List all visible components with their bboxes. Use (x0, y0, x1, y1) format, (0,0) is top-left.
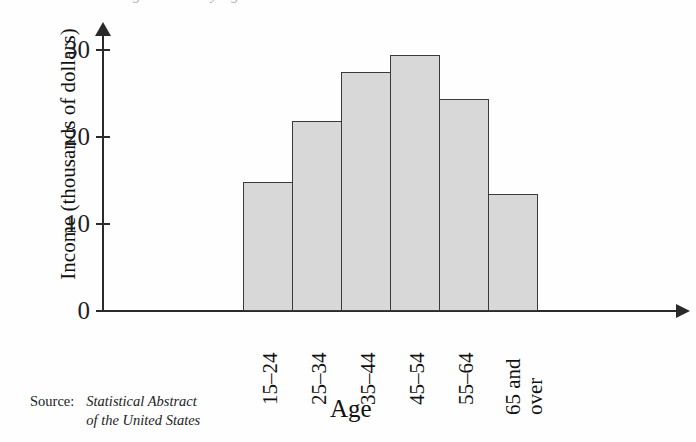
y-axis-tick (96, 136, 110, 138)
x-axis-tick-label-line: 55–64 (454, 353, 478, 406)
x-axis-tick-label: 45–54 (406, 353, 428, 406)
x-axis-arrow-icon (676, 304, 690, 318)
bar (488, 194, 538, 311)
source-note: Source: Statistical Abstract of the Unit… (30, 392, 200, 430)
x-axis-tick-label-line: over (524, 307, 546, 415)
y-axis-tick (96, 310, 110, 312)
y-axis-tick-label-text: 10 (44, 211, 90, 236)
y-axis-line (102, 30, 104, 312)
y-axis-tick-label-text: 30 (44, 37, 90, 62)
source-citation-line2: of the United States (86, 411, 200, 430)
bar-chart-figure: Average Income by Age Income (thousands … (0, 0, 696, 442)
y-axis-tick-label-text: 0 (44, 298, 90, 323)
y-axis-tick-label: 30 (40, 37, 90, 62)
source-citation: Statistical Abstract of the United State… (86, 392, 200, 430)
x-axis-tick-label: 15–24 (259, 353, 281, 406)
x-axis-tick-label: 55–64 (455, 353, 477, 406)
y-axis-tick-label-text: 20 (44, 124, 90, 149)
x-axis-title: Age (330, 396, 372, 422)
y-axis-arrow-icon (95, 22, 111, 36)
x-axis-tick-label-line: 65 and (501, 358, 525, 415)
bar (292, 121, 342, 311)
plot-area: Income (thousands of dollars) 0102030 15… (0, 0, 696, 442)
bar (390, 55, 440, 311)
y-axis-tick-label: 10 (40, 211, 90, 236)
bar (341, 72, 391, 311)
y-axis-tick (96, 49, 110, 51)
x-axis-tick-label-line: 25–34 (307, 353, 331, 406)
source-label: Source: (30, 392, 74, 430)
y-axis-tick-label: 0 (40, 298, 90, 323)
bar (439, 99, 489, 311)
y-axis-tick (96, 223, 110, 225)
x-axis-tick-label-line: 15–24 (258, 353, 282, 406)
source-citation-line1: Statistical Abstract (86, 393, 197, 409)
x-axis-tick-label: 65 andover (502, 307, 546, 415)
bar (243, 182, 293, 311)
y-axis-tick-label: 20 (40, 124, 90, 149)
x-axis-tick-label-line: 45–54 (405, 353, 429, 406)
x-axis-tick-label: 25–34 (308, 353, 330, 406)
